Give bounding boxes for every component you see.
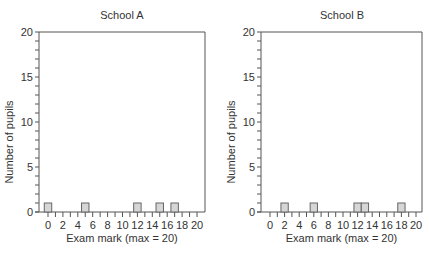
x-tick-label: 10	[116, 219, 128, 231]
bar-mark-17	[171, 203, 178, 212]
y-tick-label: 20	[21, 26, 33, 38]
bar-mark-13	[361, 203, 368, 212]
x-tick-label: 16	[381, 219, 393, 231]
y-tick-label: 0	[27, 206, 33, 218]
x-axis-label: Exam mark (max = 20)	[66, 232, 178, 244]
x-tick-label: 12	[351, 219, 363, 231]
bar-mark-5	[82, 203, 89, 212]
x-tick-label: 6	[311, 219, 317, 231]
bar-mark-6	[310, 203, 317, 212]
x-tick-label: 20	[410, 219, 422, 231]
x-tick-label: 4	[296, 219, 302, 231]
x-tick-label: 10	[337, 219, 349, 231]
y-tick-label: 5	[249, 161, 255, 173]
x-tick-label: 12	[131, 219, 143, 231]
x-tick-label: 18	[395, 219, 407, 231]
x-tick-label: 2	[282, 219, 288, 231]
x-tick-label: 18	[176, 219, 188, 231]
chart-title: School A	[100, 9, 144, 21]
x-axis-label: Exam mark (max = 20)	[286, 232, 398, 244]
bar-mark-15	[156, 203, 163, 212]
x-tick-label: 14	[146, 219, 158, 231]
chart-title: School B	[320, 9, 364, 21]
bar-mark-18	[398, 203, 405, 212]
y-tick-label: 10	[21, 116, 33, 128]
y-tick-label: 5	[27, 161, 33, 173]
chart-school-b: School B0510152002468101214161820Exam ma…	[225, 9, 422, 244]
bar-mark-12	[354, 203, 361, 212]
x-tick-label: 2	[60, 219, 66, 231]
charts-container: School A0510152002468101214161820Exam ma…	[0, 0, 429, 253]
y-axis-label: Number of pupils	[225, 100, 237, 184]
bar-mark-2	[281, 203, 288, 212]
x-tick-label: 0	[45, 219, 51, 231]
x-tick-label: 20	[191, 219, 203, 231]
y-tick-label: 10	[243, 116, 255, 128]
y-tick-label: 20	[243, 26, 255, 38]
bar-mark-12	[134, 203, 141, 212]
x-tick-label: 16	[161, 219, 173, 231]
chart-canvas: School A0510152002468101214161820Exam ma…	[0, 0, 429, 253]
x-tick-label: 0	[267, 219, 273, 231]
x-tick-label: 8	[105, 219, 111, 231]
x-tick-label: 8	[325, 219, 331, 231]
y-tick-label: 0	[249, 206, 255, 218]
x-tick-label: 4	[75, 219, 81, 231]
x-tick-label: 14	[366, 219, 378, 231]
y-tick-label: 15	[21, 71, 33, 83]
y-tick-label: 15	[243, 71, 255, 83]
bar-mark-0	[44, 203, 51, 212]
y-axis-label: Number of pupils	[3, 100, 15, 184]
chart-school-a: School A0510152002468101214161820Exam ma…	[3, 9, 205, 244]
x-tick-label: 6	[90, 219, 96, 231]
